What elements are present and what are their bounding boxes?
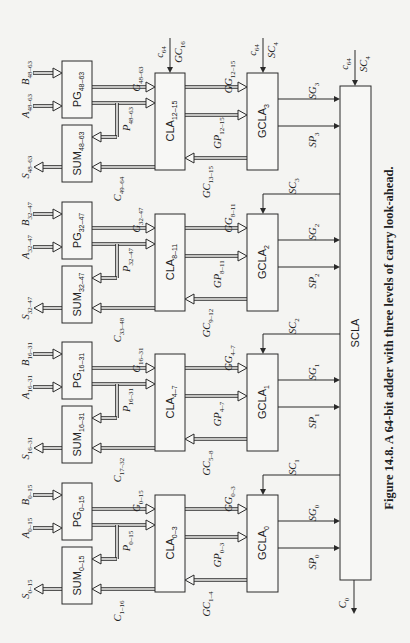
gc-bus-2-arrowhead-icon bbox=[185, 294, 194, 304]
scla-label: SCLA bbox=[349, 318, 361, 347]
gc-label-0: GC1–4 bbox=[201, 591, 215, 617]
gc-label-2: GC9–12 bbox=[201, 308, 215, 337]
sc-label-0: SC1 bbox=[287, 459, 301, 475]
output-s-bus-0-arrowhead-icon bbox=[34, 584, 43, 594]
gp-label-2: GP8–11 bbox=[212, 260, 226, 288]
output-s-label-3: S48–63 bbox=[20, 155, 34, 178]
input-a-label-3: A48–63 bbox=[20, 94, 34, 119]
output-s-label-2: S32–47 bbox=[20, 296, 34, 319]
input-b-label-1: B16–31 bbox=[20, 342, 34, 366]
p-label-3: P48–63 bbox=[121, 107, 135, 132]
gp-label-3: GP12–15 bbox=[212, 117, 226, 149]
gp-bus-3-arrowhead-icon bbox=[238, 110, 247, 120]
sg-label-1: SG1 bbox=[307, 363, 321, 380]
sp-wire-2-arrowhead-icon bbox=[334, 264, 340, 270]
output-s-label-1: S16–31 bbox=[20, 436, 34, 459]
output-s-bus-1-arrowhead-icon bbox=[34, 443, 43, 453]
sg-label-0: SG0 bbox=[307, 504, 321, 521]
c-label-1: C17–32 bbox=[112, 457, 126, 482]
p-to-sum-bus-2-arrowhead-icon bbox=[92, 273, 101, 283]
gcla-label-0: GCLA0 bbox=[256, 526, 270, 560]
p-label-0: P0–15 bbox=[121, 530, 135, 552]
scla-carry-in-sc-label: SC4 bbox=[358, 56, 372, 72]
c0-label: C0 bbox=[337, 597, 351, 608]
sc-label-2: SC3 bbox=[287, 178, 301, 194]
g-bus-3-arrowhead-icon bbox=[146, 82, 155, 92]
carry-in-gcla-sc-label: SC4 bbox=[266, 42, 280, 58]
gcla-label-2: GCLA2 bbox=[256, 245, 270, 279]
gcla-label-1: GCLA1 bbox=[256, 385, 270, 419]
carry-in-cla-gc-label: GC16 bbox=[173, 41, 187, 63]
input-a-label-2: A32–47 bbox=[20, 235, 34, 260]
p-to-sum-bus-3-arrowhead-icon bbox=[92, 132, 101, 142]
gc-bus-0-arrowhead-icon bbox=[185, 575, 194, 585]
p-bus-2-arrowhead-icon bbox=[146, 239, 155, 249]
scla-carry-in-arrow-arrowhead-icon bbox=[352, 80, 358, 86]
c-bus-2-arrowhead-icon bbox=[92, 303, 101, 313]
input-a-label-1: A16–31 bbox=[20, 375, 34, 400]
sg-wire-1-arrowhead-icon bbox=[334, 377, 340, 383]
input-b-bus-2-arrowhead-icon bbox=[53, 209, 62, 219]
output-s-label-0: S0–15 bbox=[20, 579, 34, 599]
gp-label-0: GP0–3 bbox=[212, 542, 226, 567]
sg-label-3: SG3 bbox=[307, 82, 321, 99]
carry-in-cla-label: c64 bbox=[154, 46, 168, 58]
sc-arrow-2-arrowhead-icon bbox=[260, 208, 266, 214]
sg-wire-3-arrowhead-icon bbox=[334, 96, 340, 102]
p-label-2: P32–47 bbox=[121, 248, 135, 273]
g-bus-1-arrowhead-icon bbox=[146, 363, 155, 373]
adder-diagram: PG48–63SUM48–63CLA12–15GCLA3B48–63A48–63… bbox=[0, 0, 410, 643]
c-label-3: C49–64 bbox=[112, 176, 126, 201]
input-a-bus-1-arrowhead-icon bbox=[53, 382, 62, 392]
p-to-sum-bus-0-arrowhead-icon bbox=[92, 554, 101, 564]
g-bus-0-arrowhead-icon bbox=[146, 504, 155, 514]
input-b-bus-3-arrowhead-icon bbox=[53, 68, 62, 78]
gp-bus-1-arrowhead-icon bbox=[238, 391, 247, 401]
figure-caption: Figure 14.8. A 64-bit adder with three l… bbox=[382, 166, 396, 509]
input-b-bus-1-arrowhead-icon bbox=[53, 349, 62, 359]
gp-label-1: GP4–7 bbox=[212, 401, 226, 426]
output-s-bus-3-arrowhead-icon bbox=[34, 162, 43, 172]
sg-wire-0-arrowhead-icon bbox=[334, 518, 340, 524]
p-label-1: P16–31 bbox=[121, 388, 135, 413]
input-b-label-3: B48–63 bbox=[20, 61, 34, 85]
sp-wire-1-arrowhead-icon bbox=[334, 404, 340, 410]
sp-label-3: SP3 bbox=[307, 132, 321, 148]
carry-in-cla-arrow-arrowhead-icon bbox=[167, 67, 173, 73]
p-bus-0-arrowhead-icon bbox=[146, 520, 155, 530]
gc-bus-1-arrowhead-icon bbox=[185, 434, 194, 444]
sc-arrow-0-arrowhead-icon bbox=[260, 489, 266, 495]
sp-wire-0-arrowhead-icon bbox=[334, 545, 340, 551]
carry-in-gcla-arrow-arrowhead-icon bbox=[260, 67, 266, 73]
sp-label-1: SP1 bbox=[307, 413, 321, 429]
input-a-bus-2-arrowhead-icon bbox=[53, 242, 62, 252]
input-a-bus-3-arrowhead-icon bbox=[53, 101, 62, 111]
gcla-label-3: GCLA3 bbox=[256, 104, 270, 138]
gg-bus-1-arrowhead-icon bbox=[238, 363, 247, 373]
gg-bus-2-arrowhead-icon bbox=[238, 223, 247, 233]
c-bus-1-arrowhead-icon bbox=[92, 443, 101, 453]
scla-carry-in-label: c64 bbox=[339, 58, 353, 70]
c-bus-0-arrowhead-icon bbox=[92, 584, 101, 594]
p-to-sum-bus-1-arrowhead-icon bbox=[92, 413, 101, 423]
input-a-bus-0-arrowhead-icon bbox=[53, 523, 62, 533]
carry-in-gcla-label: c64 bbox=[247, 44, 261, 56]
sc-arrow-1-arrowhead-icon bbox=[260, 348, 266, 354]
sg-label-2: SG2 bbox=[307, 223, 321, 240]
input-b-label-0: B0–15 bbox=[20, 484, 34, 505]
g-bus-2-arrowhead-icon bbox=[146, 223, 155, 233]
input-b-bus-0-arrowhead-icon bbox=[53, 490, 62, 500]
gg-bus-0-arrowhead-icon bbox=[238, 504, 247, 514]
c-label-0: C1–16 bbox=[112, 600, 126, 622]
sp-label-2: SP2 bbox=[307, 273, 321, 289]
c-bus-3-arrowhead-icon bbox=[92, 162, 101, 172]
sp-wire-3-arrowhead-icon bbox=[334, 123, 340, 129]
gc-label-1: GC5–8 bbox=[201, 450, 215, 476]
c-label-2: C33–48 bbox=[112, 317, 126, 342]
gg-bus-3-arrowhead-icon bbox=[238, 82, 247, 92]
p-bus-3-arrowhead-icon bbox=[146, 98, 155, 108]
gc-bus-3-arrowhead-icon bbox=[185, 153, 194, 163]
c0-arrow-arrowhead-icon bbox=[351, 608, 357, 614]
output-s-bus-2-arrowhead-icon bbox=[34, 303, 43, 313]
sg-wire-2-arrowhead-icon bbox=[334, 237, 340, 243]
